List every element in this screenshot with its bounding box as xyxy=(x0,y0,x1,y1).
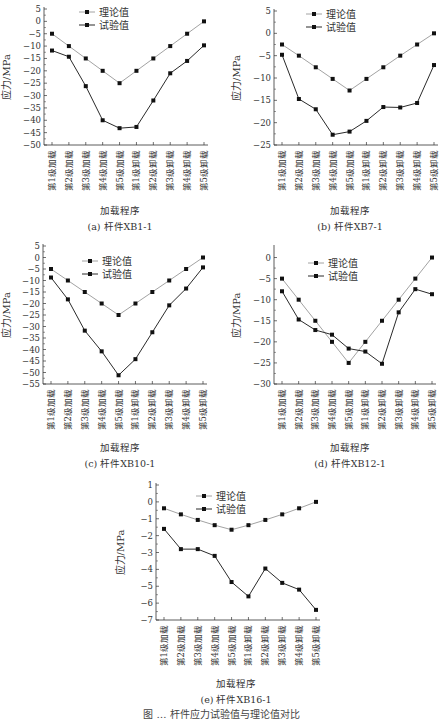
svg-text:第3级加载: 第3级加载 xyxy=(193,625,203,666)
svg-text:第5级卸载: 第5级卸载 xyxy=(311,625,321,666)
y-axis-label: 应力/MPa xyxy=(114,530,126,576)
y-axis-label: 应力/MPa xyxy=(0,54,12,100)
svg-text:第5级加载: 第5级加载 xyxy=(345,150,355,191)
svg-text:−2: −2 xyxy=(140,531,153,541)
svg-text:试验值: 试验值 xyxy=(216,503,246,515)
svg-text:5: 5 xyxy=(35,241,40,251)
svg-text:第1级加载: 第1级加载 xyxy=(159,625,169,666)
svg-text:第4级加载: 第4级加载 xyxy=(327,389,337,430)
svg-text:第1级加载: 第1级加载 xyxy=(277,389,287,430)
x-ticks: 第1级加载第2级加载第3级加载第4级加载第5级加载第1级卸载第2级卸载第3级卸载… xyxy=(46,381,208,430)
svg-text:第4级加载: 第4级加载 xyxy=(328,150,338,191)
svg-text:第1级加载: 第1级加载 xyxy=(47,150,57,191)
svg-text:第2级加载: 第2级加载 xyxy=(63,389,73,430)
svg-text:−45: −45 xyxy=(23,128,41,138)
series-test xyxy=(162,527,318,612)
svg-text:第4级加载: 第4级加载 xyxy=(98,150,108,191)
chart-svg-c: 50−5−10−15−20−25−30−35−40−45−50−55应力/MPa… xyxy=(0,237,221,437)
legend: 理论值试验值 xyxy=(82,255,132,280)
y-axis-label: 应力/MPa xyxy=(0,292,12,338)
svg-text:第4级卸载: 第4级卸载 xyxy=(181,389,191,430)
series-test xyxy=(280,287,434,366)
y-ticks: 0−5−10−15−20−25−30 xyxy=(253,253,277,389)
svg-text:−50: −50 xyxy=(23,140,41,150)
svg-text:−5: −5 xyxy=(27,264,40,274)
svg-text:−4: −4 xyxy=(140,564,153,574)
subcaption-d: (d) 杆件XB12-1 xyxy=(295,456,405,470)
xlabel-e: 加载程序 xyxy=(206,676,266,690)
chart-panel-c: 50−5−10−15−20−25−30−35−40−45−50−55应力/MPa… xyxy=(0,237,221,437)
svg-text:0: 0 xyxy=(35,253,40,263)
svg-text:第1级加载: 第1级加载 xyxy=(277,150,287,191)
y-axis-label: 应力/MPa xyxy=(230,293,242,339)
svg-text:第1级卸载: 第1级卸载 xyxy=(130,389,140,430)
x-ticks: 第1级加载第2级加载第3级加载第4级加载第5级加载第1级卸载第2级卸载第3级卸载… xyxy=(47,142,209,191)
svg-text:5: 5 xyxy=(266,6,271,16)
svg-text:−5: −5 xyxy=(140,581,153,591)
svg-text:第4级卸载: 第4级卸载 xyxy=(412,150,422,191)
svg-text:−3: −3 xyxy=(140,548,153,558)
series-test xyxy=(49,265,205,377)
chart-svg-e: 10−1−2−3−4−5−6−7应力/MPa第1级加载第2级加载第3级加载第4级… xyxy=(0,470,443,685)
legend: 理论值试验值 xyxy=(79,6,129,31)
svg-text:−25: −25 xyxy=(22,310,40,320)
svg-text:第2级卸载: 第2级卸载 xyxy=(260,625,270,666)
chart-svg-b: 50−5−10−15−20−25应力/MPa第1级加载第2级加载第3级加载第4级… xyxy=(222,0,443,200)
svg-text:−25: −25 xyxy=(253,140,271,150)
svg-text:第5级卸载: 第5级卸载 xyxy=(198,389,208,430)
svg-text:第1级卸载: 第1级卸载 xyxy=(131,150,141,191)
y-ticks: 50−5−10−15−20−25−30−35−40−45−50−55 xyxy=(22,241,46,389)
subcaption-b: (b) 杆件XB7-1 xyxy=(300,219,400,233)
svg-text:第5级卸载: 第5级卸载 xyxy=(199,150,209,191)
svg-text:第3级加载: 第3级加载 xyxy=(311,150,321,191)
svg-text:第4级卸载: 第4级卸载 xyxy=(410,389,420,430)
chart-panel-e: 10−1−2−3−4−5−6−7应力/MPa第1级加载第2级加载第3级加载第4级… xyxy=(0,470,443,685)
svg-text:第2级卸载: 第2级卸载 xyxy=(378,150,388,191)
svg-text:−1: −1 xyxy=(140,514,153,524)
svg-text:第1级卸载: 第1级卸载 xyxy=(361,150,371,191)
svg-text:0: 0 xyxy=(266,28,271,38)
svg-text:−40: −40 xyxy=(22,345,40,355)
svg-text:第4级加载: 第4级加载 xyxy=(97,389,107,430)
chart-panel-b: 50−5−10−15−20−25应力/MPa第1级加载第2级加载第3级加载第4级… xyxy=(222,0,443,200)
svg-text:−45: −45 xyxy=(22,356,40,366)
x-ticks: 第1级加载第2级加载第3级加载第4级加载第5级加载第1级卸载第2级卸载第3级卸载… xyxy=(159,617,321,666)
svg-text:第2级卸载: 第2级卸载 xyxy=(148,150,158,191)
svg-text:第1级卸载: 第1级卸载 xyxy=(243,625,253,666)
svg-text:−35: −35 xyxy=(23,103,41,113)
svg-text:5: 5 xyxy=(36,4,41,14)
svg-text:第5级加载: 第5级加载 xyxy=(114,389,124,430)
legend: 理论值试验值 xyxy=(308,257,358,282)
svg-text:−10: −10 xyxy=(22,276,40,286)
svg-text:−40: −40 xyxy=(23,115,41,125)
series-test xyxy=(280,53,436,137)
chart-svg-d: 0−5−10−15−20−25−30应力/MPa第1级加载第2级加载第3级加载第… xyxy=(222,237,443,437)
y-ticks: 50−5−10−15−20−25−30−35−40−45−50 xyxy=(23,4,47,150)
x-ticks: 第1级加载第2级加载第3级加载第4级加载第5级加载第1级卸载第2级卸载第3级卸载… xyxy=(277,142,439,191)
svg-text:第4级卸载: 第4级卸载 xyxy=(294,625,304,666)
xlabel-b: 加载程序 xyxy=(320,203,380,217)
svg-text:−5: −5 xyxy=(258,51,271,61)
svg-text:1: 1 xyxy=(148,480,153,490)
svg-text:第4级加载: 第4级加载 xyxy=(210,625,220,666)
svg-text:第2级卸载: 第2级卸载 xyxy=(377,389,387,430)
svg-text:0: 0 xyxy=(266,253,271,263)
svg-text:试验值: 试验值 xyxy=(99,19,129,31)
chart-panel-d: 0−5−10−15−20−25−30应力/MPa第1级加载第2级加载第3级加载第… xyxy=(222,237,443,437)
chart-panel-a: 50−5−10−15−20−25−30−35−40−45−50应力/MPa第1级… xyxy=(0,0,221,200)
svg-text:第2级加载: 第2级加载 xyxy=(176,625,186,666)
subcaption-a: (a) 杆件XB1-1 xyxy=(70,219,170,233)
xlabel-c: 加载程序 xyxy=(90,440,150,454)
svg-text:−10: −10 xyxy=(253,295,271,305)
svg-text:−7: −7 xyxy=(140,615,153,625)
svg-text:第5级卸载: 第5级卸载 xyxy=(429,150,439,191)
series-test xyxy=(50,43,206,130)
axes xyxy=(274,9,438,145)
figure-caption: 图 … 杆件应力试验值与理论值对比 xyxy=(0,706,443,721)
y-axis-label: 应力/MPa xyxy=(230,55,242,101)
svg-text:−30: −30 xyxy=(253,379,271,389)
svg-text:第3级卸载: 第3级卸载 xyxy=(277,625,287,666)
legend: 理论值试验值 xyxy=(306,8,356,33)
svg-text:第2级加载: 第2级加载 xyxy=(294,150,304,191)
svg-text:−6: −6 xyxy=(140,598,153,608)
